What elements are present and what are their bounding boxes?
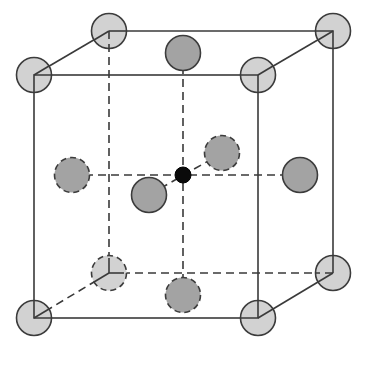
face-atom-front [132, 178, 167, 213]
face-atom-right [283, 158, 318, 193]
face-atom-bottom [166, 278, 201, 313]
hidden-atoms [55, 136, 240, 313]
face-atom-left [55, 158, 90, 193]
face-atom-top [166, 36, 201, 71]
fcc-unit-cell-diagram [0, 0, 366, 386]
center-interstitial-atom [175, 167, 191, 183]
face-center-atoms [132, 36, 318, 213]
face-atom-back [205, 136, 240, 171]
